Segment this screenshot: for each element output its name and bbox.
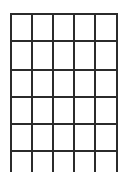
grid-diagram [0, 0, 125, 182]
